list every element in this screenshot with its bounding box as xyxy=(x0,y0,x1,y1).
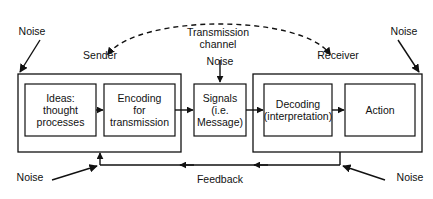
communication-process-diagram: Sender Receiver Transmission channel Noi… xyxy=(0,0,433,199)
noise-label-top-right: Noise xyxy=(384,26,424,38)
noise-arrow-bottom-left xyxy=(52,166,97,180)
ideas-box-label: Ideas: thought processes xyxy=(25,84,96,136)
transmission-channel-label: Transmission channel xyxy=(163,27,273,50)
signals-box-label: Signals (i.e. Message) xyxy=(194,84,246,136)
decoding-box-label: Decoding (interpretation) xyxy=(262,84,334,136)
action-box-label: Action xyxy=(345,84,415,136)
noise-arrow-bottom-right xyxy=(343,166,385,180)
noise-label-bottom-left: Noise xyxy=(10,172,50,184)
noise-arrow-top-left xyxy=(20,40,40,72)
receiver-group-label: Receiver xyxy=(300,50,376,62)
sender-group-label: Sender xyxy=(64,50,136,62)
feedback-label: Feedback xyxy=(180,174,260,186)
encoding-box-label: Encoding for transmission xyxy=(104,84,175,136)
noise-arrow-top-right xyxy=(398,40,419,72)
noise-label-top-center: Noise xyxy=(200,56,240,68)
noise-label-bottom-right: Noise xyxy=(390,172,430,184)
noise-label-top-left: Noise xyxy=(12,26,52,38)
